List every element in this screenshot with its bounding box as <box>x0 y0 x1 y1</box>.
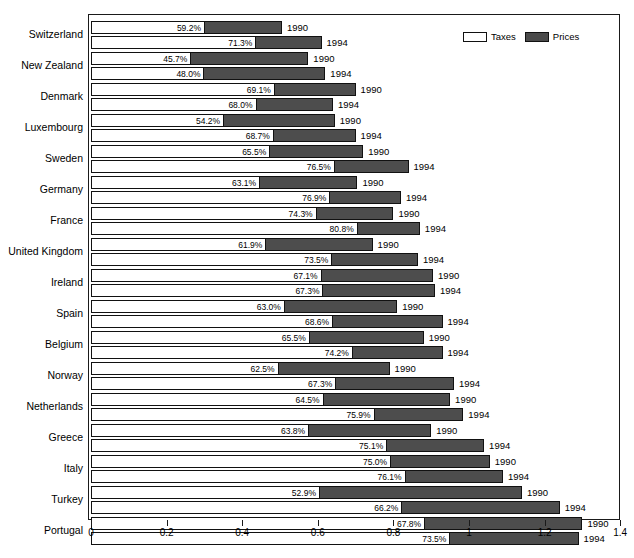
bar-value-label: 75.1% <box>359 440 383 453</box>
bar-value-label: 54.2% <box>196 115 220 128</box>
bar-segment-taxes: 80.8% <box>91 222 357 235</box>
bar-segment-taxes: 52.9% <box>91 486 319 499</box>
bar-segment-prices <box>190 52 308 65</box>
category-label: Spain <box>0 308 83 319</box>
bar-segment-taxes: 65.5% <box>91 331 309 344</box>
bar-row[interactable]: 48.0%1994 <box>88 67 402 80</box>
bar-year-label: 1990 <box>424 331 450 344</box>
x-axis: 00.20.40.60.811.21.4 <box>88 520 620 554</box>
bar-segment-taxes: 68.7% <box>91 129 273 142</box>
bar-segment-taxes: 67.1% <box>91 269 321 282</box>
bar-segment-prices <box>331 253 418 266</box>
bar-segment-taxes: 63.1% <box>91 176 259 189</box>
x-axis-tick <box>318 520 319 526</box>
bar-row[interactable]: 68.7%1994 <box>88 129 433 142</box>
bar-year-label: 1994 <box>463 408 489 421</box>
bar-segment-prices <box>352 346 443 359</box>
bar-value-label: 69.1% <box>247 84 271 97</box>
bar-value-label: 48.0% <box>176 68 200 81</box>
bar-year-label: 1990 <box>397 300 423 313</box>
bar-row[interactable]: 75.9%1994 <box>88 408 540 421</box>
bar-row[interactable]: 63.8%1990 <box>88 424 508 437</box>
bar-row[interactable]: 71.3%1994 <box>88 36 399 49</box>
bar-row[interactable]: 75.0%1990 <box>88 455 567 468</box>
bar-year-label: 1994 <box>409 160 435 173</box>
bar-row[interactable]: 64.5%1990 <box>88 393 527 406</box>
bar-row[interactable]: 63.1%1990 <box>88 176 434 189</box>
stacked-bar: 74.2% <box>91 346 443 359</box>
bar-segment-taxes: 69.1% <box>91 83 274 96</box>
bar-year-label: 1990 <box>356 83 382 96</box>
x-axis-tick-label: 0.2 <box>160 527 174 538</box>
bar-row[interactable]: 76.5%1994 <box>88 160 486 173</box>
x-axis-tick-label: 1.2 <box>538 527 552 538</box>
x-axis-tick <box>91 520 92 526</box>
bar-segment-taxes: 65.5% <box>91 145 269 158</box>
bar-segment-prices <box>335 377 454 390</box>
bar-segment-prices <box>284 300 397 313</box>
bar-value-label: 63.8% <box>281 425 305 438</box>
x-axis-tick <box>620 520 621 526</box>
bar-row[interactable]: 45.7%1990 <box>88 52 385 65</box>
bar-row[interactable]: 73.5%1994 <box>88 253 495 266</box>
bar-segment-prices <box>203 67 325 80</box>
bar-row[interactable]: 69.1%1990 <box>88 83 433 96</box>
bar-row[interactable]: 76.1%1994 <box>88 470 580 483</box>
bar-value-label: 67.3% <box>295 285 319 298</box>
bar-value-label: 74.3% <box>289 208 313 221</box>
category-label: Greece <box>0 432 83 443</box>
stacked-bar: 75.0% <box>91 455 490 468</box>
bar-row[interactable]: 75.1%1994 <box>88 439 561 452</box>
bar-row[interactable]: 61.9%1990 <box>88 238 450 251</box>
bar-segment-prices <box>269 145 363 158</box>
x-axis-tick <box>469 520 470 526</box>
stacked-bar: 68.7% <box>91 129 356 142</box>
bar-value-label: 80.8% <box>330 223 354 236</box>
bar-segment-prices <box>357 222 420 235</box>
bar-row[interactable]: 65.5%1990 <box>88 331 501 344</box>
bar-row[interactable]: 74.2%1994 <box>88 346 520 359</box>
bar-segment-prices <box>223 114 335 127</box>
bar-value-label: 45.7% <box>163 53 187 66</box>
bar-row[interactable]: 54.2%1990 <box>88 114 412 127</box>
bar-row[interactable]: 59.2%1990 <box>88 21 359 34</box>
bar-segment-prices <box>265 238 372 251</box>
bar-row[interactable]: 62.5%1990 <box>88 362 467 375</box>
stacked-bar: 66.2% <box>91 501 560 514</box>
stacked-bar: 75.1% <box>91 439 484 452</box>
bar-row[interactable]: 80.8%1994 <box>88 222 497 235</box>
bar-row[interactable]: 66.2%1994 <box>88 501 634 514</box>
stacked-bar: 65.5% <box>91 145 363 158</box>
bar-row[interactable]: 67.3%1994 <box>88 284 512 297</box>
stacked-bar: 67.1% <box>91 269 433 282</box>
bar-value-label: 68.6% <box>305 316 329 329</box>
bar-row[interactable]: 68.6%1994 <box>88 315 520 328</box>
bar-segment-prices <box>321 269 434 282</box>
bar-segment-taxes: 75.0% <box>91 455 390 468</box>
stacked-bar: 64.5% <box>91 393 450 406</box>
bar-year-label: 1994 <box>333 98 359 111</box>
bar-segment-taxes: 71.3% <box>91 36 255 49</box>
bar-row[interactable]: 52.9%1990 <box>88 486 599 499</box>
stacked-bar: 75.9% <box>91 408 463 421</box>
bar-row[interactable]: 63.0%1990 <box>88 300 474 313</box>
category-label: Sweden <box>0 153 83 164</box>
stacked-bar: 76.1% <box>91 470 503 483</box>
stacked-bar: 52.9% <box>91 486 522 499</box>
stacked-bar: 80.8% <box>91 222 420 235</box>
bar-row[interactable]: 65.5%1990 <box>88 145 440 158</box>
bar-row[interactable]: 76.9%1994 <box>88 191 478 204</box>
stacked-bar: 76.9% <box>91 191 401 204</box>
x-axis-tick <box>167 520 168 526</box>
bar-row[interactable]: 68.0%1994 <box>88 98 410 111</box>
bar-row[interactable]: 74.3%1990 <box>88 207 470 220</box>
bar-segment-prices <box>322 284 434 297</box>
bar-row[interactable]: 67.3%1994 <box>88 377 531 390</box>
stacked-bar: 63.0% <box>91 300 397 313</box>
bar-segment-prices <box>405 470 503 483</box>
bar-row[interactable]: 67.1%1990 <box>88 269 510 282</box>
stacked-bar: 67.3% <box>91 284 435 297</box>
bar-year-label: 1994 <box>443 346 469 359</box>
bar-segment-taxes: 68.0% <box>91 98 256 111</box>
category-label: United Kingdom <box>0 246 83 257</box>
